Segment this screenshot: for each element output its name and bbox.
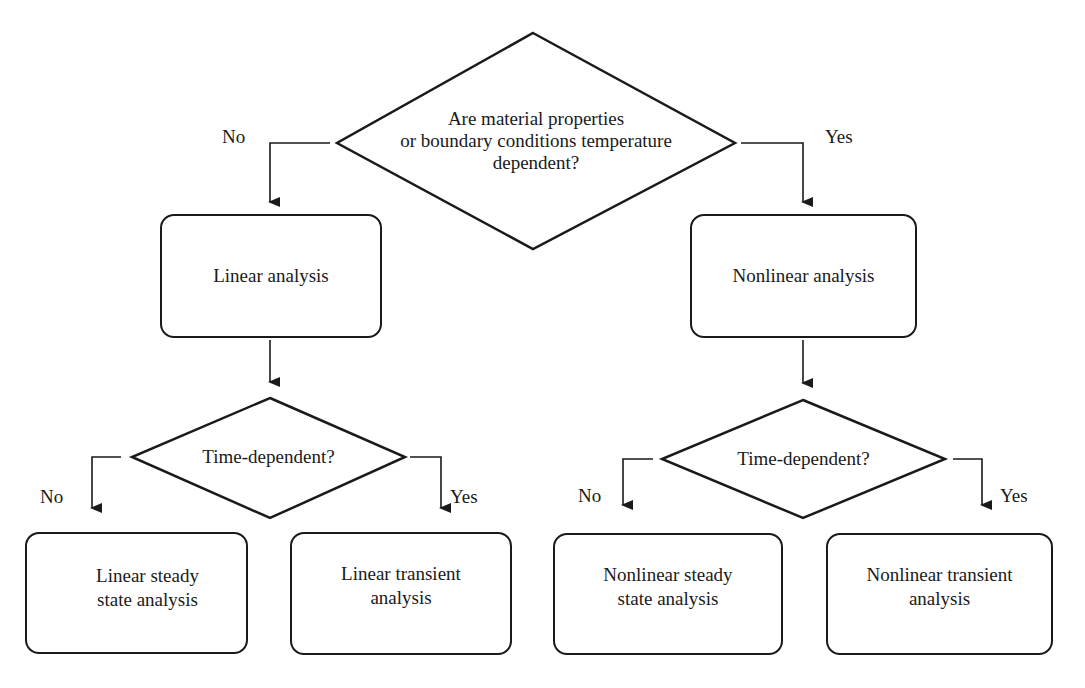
right-decision-text: Time-dependent? [662, 448, 945, 470]
linear-analysis-label: Linear analysis [213, 264, 329, 288]
root-decision-line-1: Are material properties [337, 108, 735, 130]
outcome-line: Nonlinear transient [866, 563, 1012, 587]
linear-steady-state-box: Linear steady state analysis [25, 532, 248, 654]
outcome-line: analysis [866, 587, 1012, 611]
root-no-label: No [222, 126, 245, 148]
root-yes-label: Yes [825, 126, 853, 148]
linear-analysis-box: Linear analysis [160, 214, 382, 338]
outcome-line: Linear steady [96, 564, 199, 588]
outcome-line: state analysis [603, 587, 732, 611]
linear-transient-box: Linear transient analysis [290, 532, 512, 655]
root-decision-line-3: dependent? [337, 152, 735, 174]
nonlinear-transient-box: Nonlinear transient analysis [826, 533, 1053, 655]
right-yes-connector [953, 459, 982, 505]
left-no-label: No [40, 486, 63, 508]
root-no-connector [270, 143, 330, 202]
right-yes-label: Yes [1000, 485, 1028, 507]
outcome-line: state analysis [96, 588, 199, 612]
left-decision-text: Time-dependent? [132, 446, 405, 468]
nonlinear-analysis-box: Nonlinear analysis [690, 214, 917, 338]
right-no-connector [623, 459, 653, 505]
left-no-connector [92, 457, 121, 508]
outcome-line: analysis [341, 586, 461, 610]
nonlinear-steady-state-box: Nonlinear steady state analysis [553, 533, 783, 655]
left-yes-label: Yes [450, 486, 478, 508]
right-no-label: No [578, 485, 601, 507]
outcome-line: Linear transient [341, 562, 461, 586]
outcome-line: Nonlinear steady [603, 563, 732, 587]
nonlinear-analysis-label: Nonlinear analysis [733, 264, 875, 288]
left-yes-connector [410, 457, 441, 508]
root-decision-line-2: or boundary conditions temperature [337, 130, 735, 152]
root-decision-text: Are material properties or boundary cond… [337, 108, 735, 174]
root-yes-connector [741, 143, 803, 202]
